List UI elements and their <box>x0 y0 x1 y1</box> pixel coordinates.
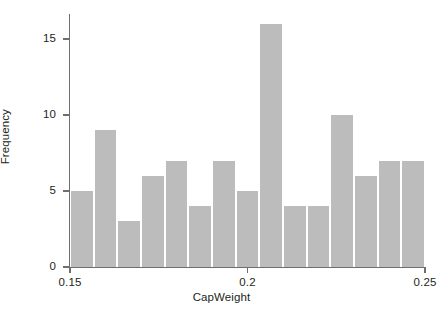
y-tick-label: 0 <box>30 261 56 273</box>
y-tick-mark <box>63 114 69 115</box>
y-tick-label: 5 <box>30 185 56 197</box>
x-tick-label: 0.15 <box>40 277 100 289</box>
y-axis-title: Frequency <box>0 109 11 164</box>
histogram-figure: 051015 0.150.20.25 Frequency CapWeight <box>0 0 443 311</box>
histogram-bar <box>237 191 259 267</box>
y-tick-label: 10 <box>30 109 56 121</box>
histogram-bar <box>308 206 330 267</box>
y-tick-mark <box>63 38 69 39</box>
histogram-bar <box>118 221 140 267</box>
histogram-bar <box>379 161 401 267</box>
histogram-bar <box>189 206 211 267</box>
x-axis-title: CapWeight <box>0 292 443 304</box>
histogram-bar <box>213 161 235 267</box>
x-tick-label: 0.2 <box>218 277 278 289</box>
histogram-bar <box>331 115 353 267</box>
histogram-bar <box>142 176 164 267</box>
y-tick-mark <box>63 190 69 191</box>
histogram-bar <box>71 191 93 267</box>
histogram-bar <box>284 206 306 267</box>
histogram-bar <box>355 176 377 267</box>
x-tick-mark <box>247 267 248 273</box>
y-tick-mark <box>63 266 69 267</box>
histogram-bar <box>402 161 424 267</box>
histogram-bar <box>166 161 188 267</box>
x-tick-label: 0.25 <box>395 277 443 289</box>
clipped-top-label <box>29 0 43 5</box>
histogram-bar <box>260 24 282 267</box>
x-tick-mark <box>424 267 425 273</box>
y-tick-label: 15 <box>30 33 56 45</box>
x-tick-mark <box>69 267 70 273</box>
plot-area <box>70 14 425 267</box>
histogram-bar <box>95 130 117 267</box>
